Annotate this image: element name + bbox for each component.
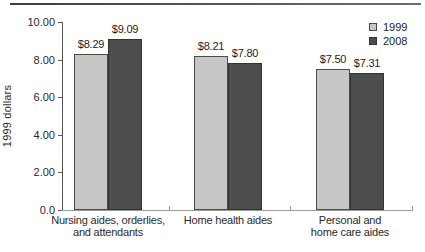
y-tick-mark (58, 22, 62, 23)
y-tick-label: 6.00 (17, 92, 55, 103)
legend-swatch-2008-icon (369, 37, 377, 45)
category-label-line: Personal and (275, 214, 425, 226)
y-tick-mark (58, 60, 62, 61)
bar-1999-3 (316, 69, 350, 210)
bar-value-label: $9.09 (95, 23, 155, 35)
x-boundary-tick (169, 206, 170, 211)
bar-1999-2 (194, 56, 228, 210)
x-boundary-tick (412, 206, 413, 211)
bar-value-label: $7.31 (337, 57, 397, 69)
x-axis-line (62, 210, 412, 211)
y-tick-label: 10.00 (17, 17, 55, 28)
x-boundary-tick (290, 206, 291, 211)
y-axis-line (62, 22, 63, 210)
bar-2008-2 (228, 63, 262, 210)
y-axis-title: 1999 dollars (1, 76, 13, 156)
bar-value-label: $7.80 (215, 47, 275, 59)
legend-swatch-1999-icon (369, 23, 377, 31)
legend-label: 1999 (383, 21, 407, 33)
y-tick-label: 2.00 (17, 167, 55, 178)
category-label: Personal andhome care aides (275, 214, 425, 238)
y-tick-mark (58, 135, 62, 136)
legend: 19992008 (369, 20, 407, 48)
y-tick-mark (58, 97, 62, 98)
category-label-line: and attendants (33, 226, 183, 238)
y-tick-label: 4.00 (17, 130, 55, 141)
legend-item-1999: 1999 (369, 20, 407, 33)
bar-2008-1 (108, 39, 142, 210)
y-tick-label: 8.00 (17, 55, 55, 66)
legend-label: 2008 (383, 35, 407, 47)
category-label-line: home care aides (275, 226, 425, 238)
bar-2008-3 (350, 73, 384, 210)
y-tick-mark (58, 172, 62, 173)
bar-chart: 1999 dollars 0.02.004.006.008.0010.00 $8… (0, 0, 425, 252)
bar-1999-1 (74, 54, 108, 210)
legend-item-2008: 2008 (369, 34, 407, 47)
figure: 1999 dollars 0.02.004.006.008.0010.00 $8… (0, 0, 425, 252)
